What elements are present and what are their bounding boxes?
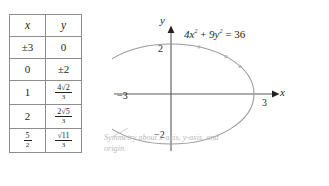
fraction: 4√2 3 — [55, 84, 71, 101]
equation-term-b: 9y — [209, 28, 219, 40]
fraction-denominator: 3 — [55, 93, 71, 101]
fraction-numerator: √11 — [55, 132, 71, 141]
table-row: 1 4√2 3 — [10, 81, 82, 105]
fraction-numerator: 2√5 — [55, 108, 71, 117]
fraction-numerator: 5 — [24, 132, 32, 141]
cell-x: 0 — [10, 59, 46, 81]
fraction-denominator: 2 — [24, 141, 32, 149]
equation-annotation: 4x2 + 9y2 = 36 — [184, 28, 245, 40]
data-point — [197, 45, 200, 48]
cell-x: ±3 — [10, 37, 46, 59]
cell-y: ±2 — [46, 59, 82, 81]
table-row: ±3 0 — [10, 37, 82, 59]
fraction: 5 2 — [24, 132, 32, 149]
equation-operator: + — [197, 28, 209, 40]
x-axis-label: x — [280, 86, 285, 98]
table-row: 2 2√5 3 — [10, 105, 82, 129]
table-body: x y ±3 0 0 ±2 1 4√2 3 2 — [10, 15, 82, 153]
data-point — [224, 55, 227, 58]
fraction: √11 3 — [55, 132, 71, 149]
fraction-denominator: 3 — [55, 117, 71, 125]
y-axis-arrowhead — [168, 26, 175, 34]
equation-equals: = 36 — [223, 28, 246, 40]
table-header-row: x y — [10, 15, 82, 37]
data-point — [238, 65, 241, 68]
column-header-y: y — [46, 15, 82, 37]
figure-container: x y ±3 0 0 ±2 1 4√2 3 2 — [0, 0, 329, 186]
fraction-denominator: 3 — [55, 141, 71, 149]
table-row: 0 ±2 — [10, 59, 82, 81]
ellipse-graph: y x 2 −2 3 −3 4x2 + 9y2 = 36 — [112, 6, 329, 181]
column-header-x: x — [10, 15, 46, 37]
cell-y: 2√5 3 — [46, 105, 82, 129]
fraction: 2√5 3 — [55, 108, 71, 125]
cell-y: √11 3 — [46, 129, 82, 153]
table-row: 5 2 √11 3 — [10, 129, 82, 153]
equation-term-a: 4x — [184, 28, 194, 40]
cell-x: 2 — [10, 105, 46, 129]
cell-y: 0 — [46, 37, 82, 59]
values-table: x y ±3 0 0 ±2 1 4√2 3 2 — [9, 14, 82, 153]
x-tick-label-negative: −3 — [117, 90, 128, 101]
cell-y: 4√2 3 — [46, 81, 82, 105]
x-tick-label-positive: 3 — [262, 97, 267, 108]
cell-x: 5 2 — [10, 129, 46, 153]
cell-x: 1 — [10, 81, 46, 105]
symmetry-caption: Symmetry about x-axis, y-axis, and origi… — [104, 132, 222, 154]
fraction-numerator: 4√2 — [55, 84, 71, 93]
x-axis-arrowhead — [272, 91, 280, 98]
y-tick-label-positive: 2 — [158, 43, 163, 54]
y-axis-label: y — [160, 14, 165, 26]
